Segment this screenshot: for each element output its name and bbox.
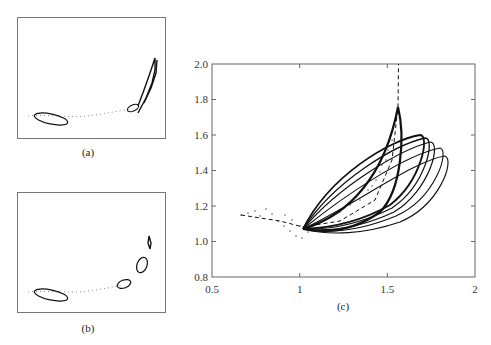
svg-text:0.5: 0.5 [205, 283, 219, 295]
svg-text:1.6: 1.6 [194, 129, 208, 141]
svg-text:1.0: 1.0 [194, 235, 208, 247]
x-tick-labels: 0.5 1 1.5 2 [205, 283, 478, 295]
svg-text:1.5: 1.5 [380, 283, 394, 295]
panel-c-chart: 2.0 1.8 1.6 1.4 1.2 1.0 0.8 0.5 1 1.5 2 [0, 0, 491, 345]
svg-text:2.0: 2.0 [194, 58, 208, 70]
panel-c-caption: (c) [323, 300, 363, 312]
svg-text:1.8: 1.8 [194, 93, 208, 105]
y-tick-labels: 2.0 1.8 1.6 1.4 1.2 1.0 0.8 [194, 58, 208, 283]
svg-text:1: 1 [297, 283, 303, 295]
ellipse-family [303, 107, 448, 233]
svg-text:1.2: 1.2 [194, 200, 208, 212]
svg-text:0.8: 0.8 [194, 271, 208, 283]
svg-text:2: 2 [472, 283, 478, 295]
svg-text:1.4: 1.4 [194, 164, 208, 176]
